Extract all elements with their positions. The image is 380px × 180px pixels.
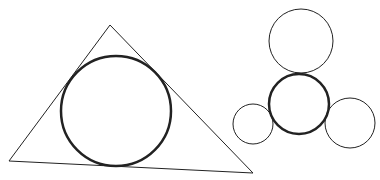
cluster-left-circle — [233, 104, 273, 144]
cluster-top-circle — [269, 9, 333, 73]
cluster-right-circle — [325, 98, 375, 148]
cluster-center-circle — [269, 74, 329, 134]
inscribed-circle — [61, 56, 171, 166]
diagram-canvas — [0, 0, 380, 180]
triangle — [9, 25, 253, 173]
